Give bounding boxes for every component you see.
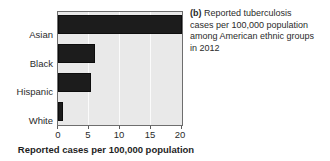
tick-label-0: 0 [55, 129, 60, 140]
figure-panel-b: Asian Black Hispanic White 0 5 10 15 [0, 0, 330, 161]
x-axis-title: Reported cases per 100,000 population [8, 144, 204, 155]
category-label-white: White [0, 116, 53, 126]
bar-chart: Asian Black Hispanic White 0 5 10 15 [0, 0, 196, 161]
caption-line-1: (b) Reported tuberculosis [190, 8, 326, 20]
category-label-asian: Asian [0, 30, 53, 40]
caption-line-4: in 2012 [190, 43, 326, 55]
category-axis-labels: Asian Black Hispanic White [0, 11, 53, 126]
plot-area [57, 11, 183, 126]
caption-label: (b) [190, 8, 202, 18]
tick-label-15: 15 [145, 129, 156, 140]
bar-asian [58, 15, 182, 34]
category-label-black: Black [0, 59, 53, 69]
value-axis: 0 5 10 15 20 [57, 126, 183, 142]
caption-line-2: cases per 100,000 population [190, 20, 326, 32]
tick-label-5: 5 [85, 129, 90, 140]
tick-label-20: 20 [175, 129, 186, 140]
category-label-hispanic: Hispanic [0, 87, 53, 97]
bar-black [58, 44, 95, 63]
bar-hispanic [58, 73, 91, 92]
figure-caption: (b) Reported tuberculosis cases per 100,… [190, 8, 326, 54]
bar-white [58, 102, 63, 121]
caption-line-3: among American ethnic groups [190, 31, 326, 43]
tick-label-10: 10 [114, 129, 125, 140]
caption-text-1: Reported tuberculosis [204, 8, 292, 18]
